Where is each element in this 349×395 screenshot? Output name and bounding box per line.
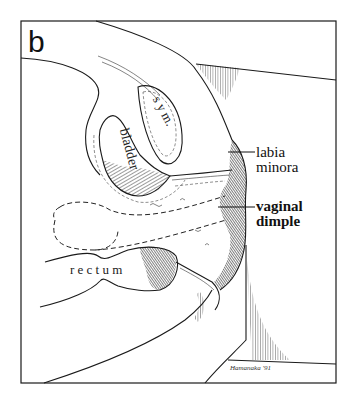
vaginal-dimple-label-line1: vaginal — [256, 198, 303, 214]
labia-minora-label-line2: minora — [256, 159, 299, 175]
labia-minora-label-line1: labia — [256, 144, 285, 160]
artist-signature: Hamanaka '91 — [229, 364, 271, 372]
symphysis-label: s y m. — [150, 93, 178, 128]
panel-letter: b — [28, 25, 45, 58]
rectum-label: r e c t u m — [70, 262, 122, 277]
thigh-shading — [196, 64, 240, 100]
rectum: r e c t u m — [40, 247, 219, 322]
symphysis-pubis: s y m. — [98, 56, 182, 164]
vaginal-dimple-label-line2: dimple — [256, 213, 301, 229]
bladder-label: bladder — [117, 127, 142, 172]
anatomical-illustration: b s y m. bladder — [0, 0, 349, 395]
bladder: bladder — [94, 116, 185, 203]
